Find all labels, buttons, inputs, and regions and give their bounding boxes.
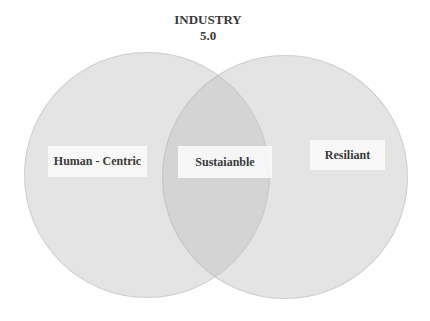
diagram-title: INDUSTRY 5.0 [150,12,266,44]
title-line-1: INDUSTRY [150,12,266,28]
label-resilient-text: Resiliant [325,148,370,163]
label-resilient: Resiliant [310,140,385,170]
label-sustainable-text: Sustaianble [195,155,254,170]
title-line-2: 5.0 [150,28,266,44]
label-human-centric-text: Human - Centric [54,154,141,169]
label-human-centric: Human - Centric [48,146,147,177]
label-sustainable: Sustaianble [178,146,272,178]
